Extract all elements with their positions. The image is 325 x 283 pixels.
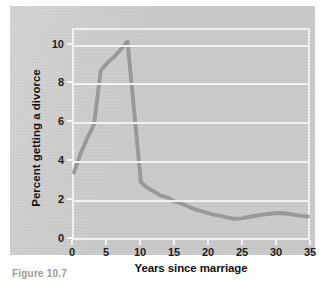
y-axis-title: Percent getting a divorce — [30, 48, 42, 228]
y-tick-label-6: 6 — [58, 115, 64, 127]
data-series-line — [74, 42, 308, 219]
y-tick-mark-6 — [67, 120, 72, 122]
plot-area — [72, 28, 310, 238]
gridline-y-6 — [74, 122, 308, 124]
y-tick-mark-2 — [67, 198, 72, 200]
x-tick-mark-25 — [241, 240, 243, 245]
x-tick-mark-10 — [139, 240, 141, 245]
divorce-rate-line-chart — [74, 30, 308, 238]
gridline-y-4 — [74, 161, 308, 163]
figure-root: 0246810 05101520253035 Years since marri… — [0, 0, 325, 283]
x-axis-title: Years since marriage — [72, 262, 310, 274]
x-tick-label-25: 25 — [236, 246, 248, 258]
x-tick-mark-0 — [71, 240, 73, 245]
y-tick-mark-0 — [67, 237, 72, 239]
x-tick-mark-5 — [105, 240, 107, 245]
figure-caption: Figure 10.7 — [12, 268, 67, 279]
plot-inner — [74, 30, 308, 238]
y-tick-mark-10 — [67, 43, 72, 45]
x-tick-mark-20 — [207, 240, 209, 245]
x-tick-label-5: 5 — [103, 246, 109, 258]
y-tick-label-2: 2 — [58, 193, 64, 205]
x-tick-label-10: 10 — [134, 246, 146, 258]
y-tick-mark-4 — [67, 159, 72, 161]
x-tick-mark-15 — [173, 240, 175, 245]
figure-panel: 0246810 05101520253035 Years since marri… — [10, 6, 315, 255]
gridline-y-10 — [74, 45, 308, 47]
x-tick-label-15: 15 — [168, 246, 180, 258]
y-tick-mark-8 — [67, 81, 72, 83]
gridline-y-8 — [74, 83, 308, 85]
x-tick-mark-30 — [275, 240, 277, 245]
y-tick-label-4: 4 — [58, 154, 64, 166]
y-tick-label-0: 0 — [58, 232, 64, 244]
gridline-y-2 — [74, 200, 308, 202]
x-tick-label-0: 0 — [69, 246, 75, 258]
x-tick-label-35: 35 — [304, 246, 316, 258]
x-tick-mark-35 — [309, 240, 311, 245]
y-tick-label-8: 8 — [58, 76, 64, 88]
y-tick-label-10: 10 — [52, 38, 64, 50]
x-tick-label-30: 30 — [270, 246, 282, 258]
x-tick-label-20: 20 — [202, 246, 214, 258]
